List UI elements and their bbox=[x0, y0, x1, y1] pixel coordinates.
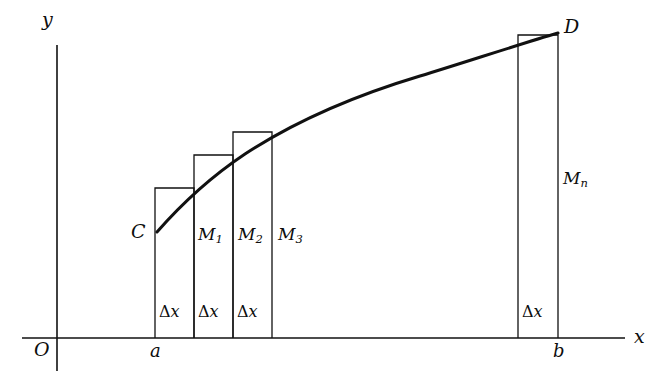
delta-x-label-2: Δx bbox=[198, 304, 219, 320]
delta-x-label-n: Δx bbox=[522, 304, 543, 320]
function-curve bbox=[157, 33, 558, 232]
origin-label: O bbox=[34, 340, 50, 359]
figure-canvas: y x O a b C D M1 M2 M3 Mn Δx Δx Δx Δx bbox=[0, 0, 670, 379]
curve-start-point-label-c: C bbox=[131, 222, 146, 241]
upper-bound-label-b: b bbox=[553, 342, 565, 360]
delta-x-label-3: Δx bbox=[237, 304, 258, 320]
lower-bound-label-a: a bbox=[150, 342, 161, 360]
rectangle-n-outline bbox=[518, 35, 558, 338]
x-axis-label: x bbox=[634, 327, 645, 346]
curve-end-point-label-d: D bbox=[564, 17, 579, 36]
rect-label-m3: M3 bbox=[278, 226, 303, 246]
rect-label-mn: Mn bbox=[563, 170, 588, 190]
delta-x-label-1: Δx bbox=[159, 304, 180, 320]
rect-label-m1: M1 bbox=[198, 226, 223, 246]
y-axis-label: y bbox=[42, 10, 53, 29]
rect-label-m2: M2 bbox=[238, 226, 263, 246]
